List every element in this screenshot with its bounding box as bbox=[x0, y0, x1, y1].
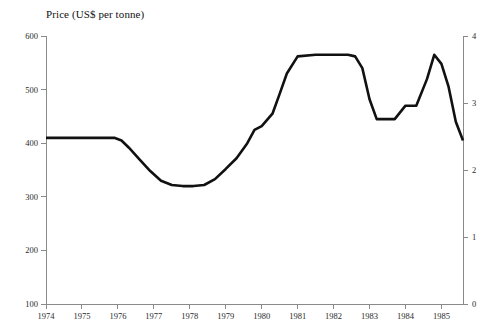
left-tick-label: 500 bbox=[25, 85, 38, 95]
right-tick-label: 1 bbox=[472, 232, 476, 242]
right-tick-label: 2 bbox=[472, 165, 476, 175]
right-tick-label: 3 bbox=[472, 98, 476, 108]
left-tick-label: 300 bbox=[25, 192, 38, 202]
right-axis-ticks: 01234 bbox=[463, 31, 477, 309]
left-tick-label: 600 bbox=[25, 31, 38, 41]
bottom-tick-label: 1981 bbox=[289, 311, 306, 321]
left-axis-ticks: 100200300400500600 bbox=[25, 31, 46, 309]
bottom-axis-ticks: 1974197519761977197819791980198119821983… bbox=[38, 304, 450, 321]
bottom-tick-label: 1978 bbox=[181, 311, 198, 321]
left-tick-label: 200 bbox=[25, 245, 38, 255]
left-tick-label: 100 bbox=[25, 299, 38, 309]
bottom-tick-label: 1976 bbox=[109, 311, 126, 321]
bottom-tick-label: 1984 bbox=[397, 311, 415, 321]
price-series-line bbox=[46, 55, 463, 186]
bottom-tick-label: 1982 bbox=[325, 311, 342, 321]
bottom-tick-label: 1975 bbox=[73, 311, 90, 321]
bottom-tick-label: 1983 bbox=[361, 311, 378, 321]
bottom-tick-label: 1985 bbox=[433, 311, 450, 321]
bottom-tick-label: 1974 bbox=[38, 311, 56, 321]
bottom-tick-label: 1977 bbox=[145, 311, 162, 321]
right-tick-label: 0 bbox=[472, 299, 476, 309]
right-tick-label: 4 bbox=[472, 31, 477, 41]
chart-plot-area: 100200300400500600 01234 197419751976197… bbox=[0, 0, 501, 331]
axis-frame bbox=[46, 36, 463, 304]
left-tick-label: 400 bbox=[25, 138, 38, 148]
bottom-tick-label: 1980 bbox=[253, 311, 270, 321]
bottom-tick-label: 1979 bbox=[217, 311, 234, 321]
price-chart: Price (US$ per tonne) 100200300400500600… bbox=[0, 0, 501, 331]
